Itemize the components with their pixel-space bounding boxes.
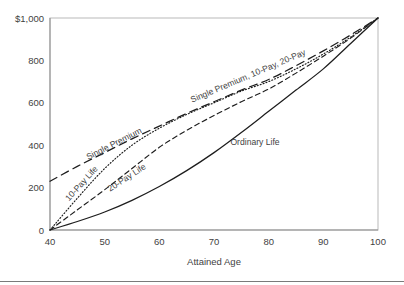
x-tick-label: 40 — [45, 236, 56, 247]
x-tick-label: 70 — [209, 236, 220, 247]
series-line-ordinary-life — [50, 18, 378, 230]
x-tick-label: 60 — [154, 236, 165, 247]
x-tick-label: 50 — [99, 236, 110, 247]
x-tick-label: 90 — [318, 236, 329, 247]
plot-area-frame — [50, 18, 378, 230]
y-tick-label: 400 — [28, 140, 44, 151]
y-tick-label: 0 — [39, 225, 44, 236]
y-tick-label: 200 — [28, 182, 44, 193]
y-tick-label: 600 — [28, 97, 44, 108]
footer-divider — [0, 281, 404, 282]
y-axis-tick-labels: $1,000 800 600 400 200 0 — [15, 13, 44, 236]
series-line-20-pay-life — [50, 18, 378, 230]
y-tick-label: $1,000 — [15, 13, 44, 24]
line-chart: $1,000 800 600 400 200 0 40 50 60 70 80 … — [0, 0, 404, 285]
series-annotation: Ordinary Life — [230, 137, 279, 147]
series-line-single-premium — [50, 18, 378, 181]
series-annotations: Single Premium10-Pay Life20-Pay LifeSing… — [63, 47, 308, 203]
x-tick-label: 80 — [263, 236, 274, 247]
x-axis-tick-labels: 40 50 60 70 80 90 100 — [45, 236, 386, 247]
x-tick-label: 100 — [370, 236, 386, 247]
chart-figure: $1,000 800 600 400 200 0 40 50 60 70 80 … — [0, 0, 404, 285]
series-annotation: 20-Pay Life — [106, 161, 148, 193]
series-annotation: Single Premium, 10-Pay, 20-Pay — [189, 47, 308, 105]
series-line-10-pay-life — [50, 18, 378, 230]
y-tick-label: 800 — [28, 55, 44, 66]
x-axis-title: Attained Age — [187, 256, 241, 267]
series-layer — [50, 18, 378, 230]
